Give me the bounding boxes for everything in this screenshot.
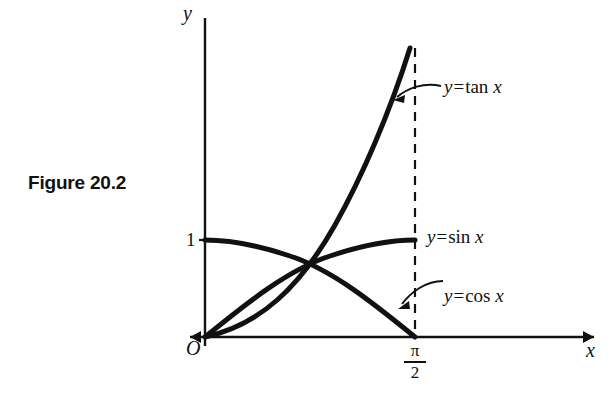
label-cos-curve: y=cos x: [444, 285, 504, 307]
label-sin-argument: x: [475, 226, 483, 247]
figure-container: Figure 20.2: [0, 0, 615, 397]
x-axis-label: x: [586, 339, 595, 362]
two-denominator: 2: [404, 364, 426, 382]
label-tan-equals: =: [452, 76, 465, 97]
curve-sin: [205, 240, 415, 337]
label-tan-curve: y=tan x: [444, 76, 502, 98]
curve-tan: [205, 48, 410, 337]
origin-label: O: [186, 337, 200, 360]
y-axis-label: y: [183, 2, 192, 25]
label-tan-function: tan: [465, 76, 488, 97]
label-sin-equals: =: [435, 226, 448, 247]
pi-numerator: π: [404, 342, 426, 360]
curve-cos: [205, 240, 415, 337]
label-sin-curve: y=sin x: [427, 226, 484, 248]
label-cos-equals: =: [452, 285, 465, 306]
cos-arrow: [398, 281, 443, 309]
label-cos-function: cos: [465, 285, 490, 306]
label-tan-argument: x: [493, 76, 501, 97]
label-cos-argument: x: [495, 285, 503, 306]
x-tick-label-pi-over-two: π 2: [404, 342, 426, 382]
plot-area: [0, 0, 615, 397]
tan-arrow: [393, 85, 441, 103]
y-tick-label-one: 1: [186, 229, 196, 251]
x-axis: [190, 331, 594, 343]
label-sin-function: sin: [448, 226, 470, 247]
